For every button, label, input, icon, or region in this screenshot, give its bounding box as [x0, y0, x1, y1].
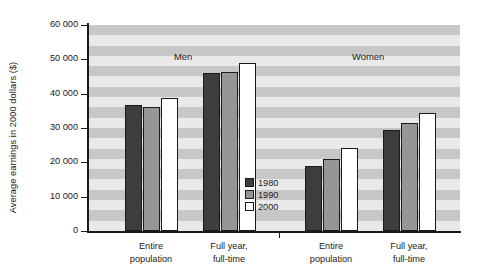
y-axis-tick-label: 60 000	[0, 19, 87, 29]
x-axis-line	[87, 231, 461, 233]
background-band	[89, 25, 460, 35]
panel-label-men: Men	[174, 51, 192, 62]
bar-2000	[161, 98, 178, 231]
legend-item-2000: 2000	[245, 201, 278, 212]
panel-label-women: Women	[352, 51, 384, 62]
y-axis-tick-label: 20 000	[0, 156, 87, 166]
x-axis-group-label-line2: full-time	[393, 254, 425, 264]
legend-swatch-1980-icon	[245, 178, 254, 187]
chart-legend: 1980 1990 2000	[245, 177, 278, 212]
bar-1990	[143, 107, 160, 231]
x-axis-group-label: Full year,full-time	[174, 240, 284, 266]
chart-figure: Average earnings in 2000 dollars ($) Men…	[0, 0, 478, 275]
y-axis-tick-label: 40 000	[0, 88, 87, 98]
x-axis-group-label-line2: population	[310, 254, 352, 264]
legend-swatch-2000-icon	[245, 202, 254, 211]
x-axis-group-label-line2: full-time	[213, 254, 245, 264]
bar-1990	[221, 72, 238, 231]
x-axis-group-label-line1: Entire	[319, 241, 343, 251]
bar-1980	[383, 130, 400, 231]
legend-label-2000: 2000	[258, 202, 278, 212]
background-band	[89, 46, 460, 56]
y-axis-ticks: 60 00050 00040 00030 00020 00010 0000	[0, 0, 87, 275]
bar-1990	[401, 123, 418, 231]
y-axis-tick-label: 0	[0, 225, 87, 235]
y-axis-line	[87, 23, 89, 233]
y-axis-tick-label: 10 000	[0, 191, 87, 201]
legend-label-1980: 1980	[258, 178, 278, 188]
bar-2000	[341, 148, 358, 231]
x-axis-group-label-line2: population	[130, 254, 172, 264]
background-band	[89, 66, 460, 76]
bar-1980	[305, 166, 322, 231]
bar-1980	[203, 73, 220, 231]
y-axis-tick-label: 50 000	[0, 53, 87, 63]
bar-1980	[125, 105, 142, 231]
x-axis-group-label-line1: Full year,	[210, 241, 247, 251]
bar-1990	[323, 159, 340, 231]
x-axis-group-label: Full year,full-time	[354, 240, 464, 266]
legend-swatch-1990-icon	[245, 190, 254, 199]
x-axis-panel-separator-tick	[279, 232, 280, 238]
background-band	[89, 87, 460, 97]
legend-item-1980: 1980	[245, 177, 278, 188]
x-axis-group-label-line1: Entire	[139, 241, 163, 251]
x-axis-group-label-line1: Full year,	[390, 241, 427, 251]
legend-item-1990: 1990	[245, 189, 278, 200]
legend-label-1990: 1990	[258, 190, 278, 200]
bar-2000	[419, 113, 436, 231]
y-axis-tick-label: 30 000	[0, 122, 87, 132]
